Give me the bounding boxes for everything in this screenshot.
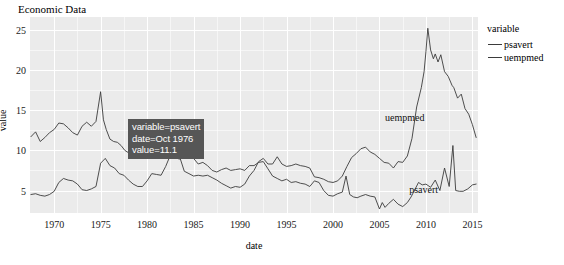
x-tick-label: 1980: [137, 219, 157, 230]
y-tick-label: 10: [4, 145, 26, 156]
legend-item-psavert[interactable]: psavert: [487, 38, 561, 51]
tooltip-variable: variable=psavert: [132, 121, 200, 133]
x-tick-label: 1975: [91, 219, 111, 230]
chart-title: Economic Data: [18, 3, 86, 15]
legend-item-label: uempmed: [503, 52, 543, 63]
series-label-psavert: psavert: [409, 184, 438, 195]
plot-panel: psavertuempmed: [30, 17, 478, 213]
x-tick-label: 1970: [44, 219, 64, 230]
x-tick-label: 2000: [323, 219, 343, 230]
series-label-uempmed: uempmed: [385, 112, 424, 123]
y-tick-label: 20: [4, 65, 26, 76]
x-tick-label: 1995: [277, 219, 297, 230]
tooltip-value: value=11.1: [132, 144, 200, 156]
x-tick-label: 1990: [230, 219, 250, 230]
legend-item-label: psavert: [503, 39, 533, 50]
y-tick-label: 25: [4, 24, 26, 35]
x-tick-label: 1985: [184, 219, 204, 230]
tooltip-date: date=Oct 1976: [132, 133, 200, 145]
legend-title: variable: [487, 23, 561, 34]
legend: variable psavertuempmed: [487, 23, 561, 64]
x-tick-label: 2010: [416, 219, 436, 230]
x-tick-label: 2005: [369, 219, 389, 230]
chart-screenshot: Economic Data psavertuempmed variable=ps…: [0, 0, 564, 265]
legend-line-icon: [487, 39, 503, 50]
legend-item-uempmed[interactable]: uempmed: [487, 51, 561, 64]
data-tooltip: variable=psavert date=Oct 1976 value=11.…: [128, 119, 204, 159]
x-tick-label: 2015: [462, 219, 482, 230]
legend-items: psavertuempmed: [487, 38, 561, 64]
legend-line-icon: [487, 52, 503, 63]
y-axis-title: value: [0, 110, 8, 132]
x-axis-title: date: [246, 240, 263, 251]
y-tick-label: 5: [4, 185, 26, 196]
